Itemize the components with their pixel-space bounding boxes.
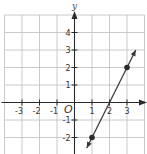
origin-label: O (64, 103, 73, 116)
coordinate-plane: -3-2-1123-2-11234 y O (0, 0, 147, 154)
x-tick-label: -2 (33, 107, 41, 116)
y-tick-label: -1 (63, 116, 71, 125)
y-tick-label: -2 (63, 134, 71, 143)
data-point (124, 65, 130, 71)
x-tick-label: 3 (124, 107, 129, 116)
y-tick-label: 2 (65, 64, 70, 73)
x-axis-arrow-icon (139, 100, 147, 106)
y-axis-label: y (71, 1, 78, 11)
y-tick-label: 4 (65, 29, 70, 38)
x-tick-label: 1 (89, 107, 94, 116)
y-tick-label: 3 (65, 46, 70, 55)
y-tick-label: 1 (65, 81, 70, 90)
function-line (87, 50, 136, 148)
data-point (89, 135, 95, 141)
x-tick-label: -3 (15, 107, 23, 116)
plotted-line (87, 50, 136, 148)
x-tick-label: 2 (107, 107, 112, 116)
x-tick-label: -1 (50, 107, 58, 116)
